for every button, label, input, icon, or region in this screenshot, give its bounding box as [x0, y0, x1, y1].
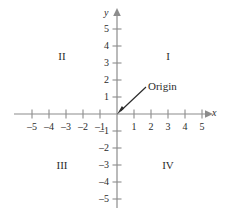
y-tick-label-neg3: –3 — [99, 160, 109, 170]
y-axis-arrowhead — [113, 8, 121, 16]
coordinate-plane-figure: x y –5 –4 –3 –2 –1 1 2 3 4 5 5 4 3 2 1 –… — [0, 0, 235, 220]
y-tick-label-neg1: –1 — [99, 126, 109, 136]
coordinate-plane-graphic — [0, 0, 235, 220]
x-tick-label-neg4: –4 — [44, 122, 54, 132]
x-axis-group — [14, 110, 213, 119]
x-tick-label-neg5: –5 — [27, 122, 37, 132]
x-tick-label-3: 3 — [166, 122, 171, 132]
y-tick-label-1: 1 — [104, 92, 109, 102]
y-axis-label: y — [104, 8, 108, 18]
y-tick-label-neg4: –4 — [99, 177, 109, 187]
x-tick-label-4: 4 — [183, 122, 188, 132]
origin-annotation-arrow — [117, 87, 146, 115]
y-tick-label-5: 5 — [104, 24, 109, 34]
x-tick-label-neg3: –3 — [61, 122, 71, 132]
x-tick-label-1: 1 — [132, 122, 137, 132]
quadrant-label-4: IV — [162, 160, 174, 171]
x-tick-label-2: 2 — [149, 122, 154, 132]
y-tick-label-4: 4 — [104, 41, 109, 51]
y-axis-group — [113, 8, 122, 208]
x-tick-label-neg2: –2 — [78, 122, 88, 132]
y-tick-label-neg2: –2 — [99, 143, 109, 153]
x-axis-label: x — [212, 108, 216, 118]
quadrant-label-2: II — [58, 51, 65, 62]
origin-annotation-label: Origin — [148, 81, 177, 92]
y-tick-label-3: 3 — [104, 58, 109, 68]
y-tick-label-neg5: –5 — [99, 194, 109, 204]
quadrant-label-1: I — [166, 51, 170, 62]
y-tick-label-2: 2 — [104, 75, 109, 85]
quadrant-label-3: III — [57, 160, 68, 171]
x-tick-label-5: 5 — [200, 122, 205, 132]
